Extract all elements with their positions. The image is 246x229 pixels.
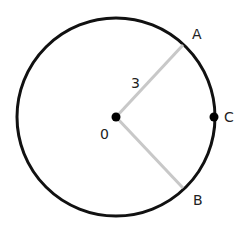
point-c-dot — [210, 113, 219, 122]
radius-length-label: 3 — [131, 75, 140, 91]
radius-ob — [116, 117, 183, 188]
center-dot — [112, 113, 121, 122]
radius-oa — [116, 45, 183, 117]
label-b: B — [193, 192, 203, 208]
label-a: A — [192, 26, 202, 42]
circle-diagram: A B C 3 0 — [0, 0, 246, 229]
label-c: C — [224, 109, 234, 125]
label-center: 0 — [100, 126, 109, 142]
